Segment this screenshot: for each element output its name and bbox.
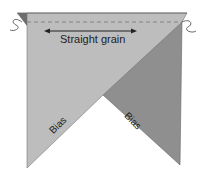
thread-right-icon — [182, 21, 196, 32]
thread-left-icon — [10, 19, 22, 30]
bunting-shape — [0, 0, 205, 183]
straight-grain-label: Straight grain — [60, 33, 125, 45]
